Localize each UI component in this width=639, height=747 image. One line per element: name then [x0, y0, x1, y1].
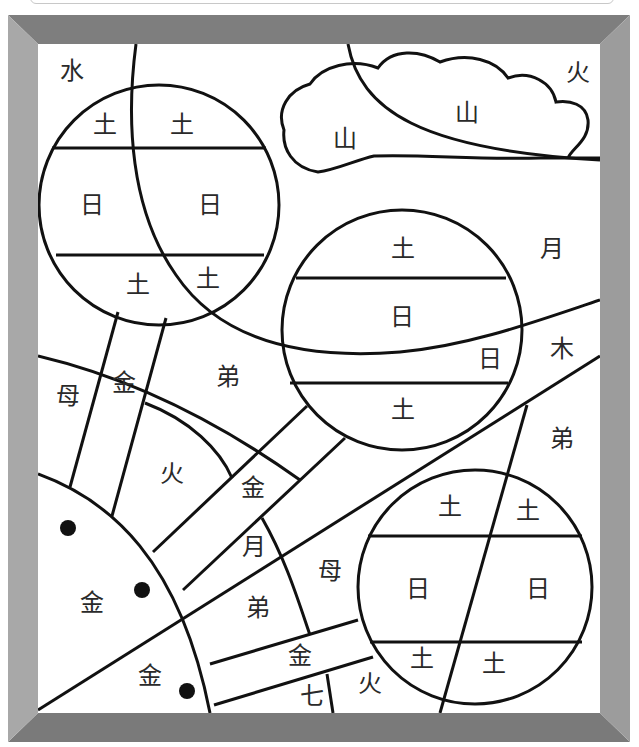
label-planet1-earth-tr[interactable]: 土 — [170, 111, 194, 139]
label-planet3-sun-right[interactable]: 日 — [526, 575, 550, 603]
label-planet1-earth-tl[interactable]: 土 — [93, 111, 117, 139]
label-planet1-earth-bl[interactable]: 土 — [126, 271, 150, 299]
label-planet1-sun-left[interactable]: 日 — [80, 191, 104, 219]
label-planet2-sun-small[interactable]: 日 — [478, 345, 502, 373]
label-seven-bottom[interactable]: 七 — [300, 682, 324, 710]
label-cloud-mountain-left[interactable]: 山 — [333, 125, 357, 153]
label-planet2-earth-top[interactable]: 土 — [391, 235, 415, 263]
label-fire-mid[interactable]: 火 — [160, 460, 184, 488]
dot-3 — [179, 683, 195, 699]
label-brother-mid[interactable]: 弟 — [216, 363, 240, 391]
label-tree-right[interactable]: 木 — [550, 335, 574, 363]
label-planet3-earth-tr[interactable]: 土 — [516, 497, 540, 525]
label-gold-ray3[interactable]: 金 — [288, 642, 312, 670]
label-gold-ray1[interactable]: 金 — [112, 369, 136, 397]
label-gold-sun-low[interactable]: 金 — [138, 662, 162, 690]
label-water-topleft[interactable]: 水 — [60, 57, 84, 85]
coloring-puzzle-canvas: 水 火 山 山 土 土 日 日 土 土 土 日 日 土 月 木 弟 母 金 弟 … — [0, 0, 639, 747]
label-planet1-sun-right[interactable]: 日 — [198, 191, 222, 219]
label-brother-right[interactable]: 弟 — [550, 425, 574, 453]
label-mother-left[interactable]: 母 — [56, 382, 80, 410]
frame-left — [8, 15, 38, 742]
label-gold-ray2[interactable]: 金 — [241, 474, 265, 502]
dot-2 — [134, 582, 150, 598]
label-moon-mid[interactable]: 月 — [242, 533, 266, 561]
label-planet1-earth-br[interactable]: 土 — [196, 265, 220, 293]
label-planet3-sun-left[interactable]: 日 — [406, 575, 430, 603]
frame-bottom — [8, 713, 630, 742]
label-fire-topright[interactable]: 火 — [566, 59, 590, 87]
label-cloud-mountain-right[interactable]: 山 — [455, 99, 479, 127]
label-moon-right[interactable]: 月 — [540, 235, 564, 263]
frame-top — [8, 15, 630, 44]
label-planet2-sun-mid[interactable]: 日 — [390, 303, 414, 331]
label-planet3-earth-tl[interactable]: 土 — [438, 493, 462, 521]
label-planet2-earth-bottom[interactable]: 土 — [391, 396, 415, 424]
label-mother-mid[interactable]: 母 — [318, 557, 342, 585]
dot-1 — [60, 520, 76, 536]
label-gold-sun[interactable]: 金 — [80, 589, 104, 617]
label-brother-low[interactable]: 弟 — [246, 594, 270, 622]
label-planet3-earth-bl[interactable]: 土 — [410, 645, 434, 673]
label-fire-bottom[interactable]: 火 — [358, 670, 382, 698]
label-planet3-earth-br[interactable]: 土 — [482, 650, 506, 678]
frame-right — [600, 15, 630, 742]
